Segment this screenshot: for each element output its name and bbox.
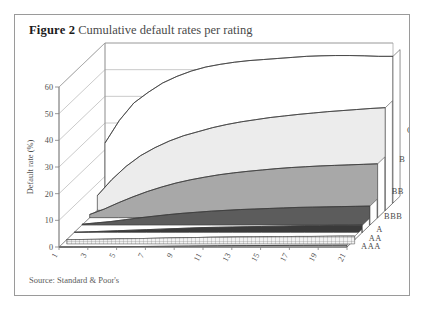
x-tick-label: 5	[107, 252, 117, 260]
x-tick-label: 9	[165, 252, 175, 260]
y-tick-label: 50	[45, 110, 53, 119]
default-rates-3d-area-chart: 0102030405060Default rate (%)13579111315…	[15, 41, 409, 271]
x-tick-label: 15	[250, 252, 262, 263]
y-axis: 0102030405060Default rate (%)	[26, 83, 59, 252]
series-label-bbb: BBB	[384, 212, 403, 221]
y-tick-label: 40	[45, 136, 53, 145]
x-tick-label: 17	[278, 252, 290, 263]
x-tick-label: 1	[50, 252, 60, 260]
page-title: Figure 2 Cumulative default rates per ra…	[29, 23, 253, 38]
series-label-ccc: CCC	[407, 126, 409, 135]
x-tick-label: 7	[136, 252, 146, 260]
ribbon-face-a	[74, 225, 362, 232]
series-ribbons	[59, 50, 400, 247]
x-tick-label: 11	[192, 252, 204, 263]
chart-plot: 0102030405060Default rate (%)13579111315…	[15, 41, 409, 271]
y-tick-label: 0	[49, 243, 53, 252]
x-axis: 13579111315171921Years	[50, 247, 348, 271]
figure-title-text: Cumulative default rates per rating	[78, 23, 252, 37]
figure-number: Figure 2	[29, 23, 75, 37]
series-label-bb: BB	[392, 187, 404, 196]
y-tick-label: 60	[45, 83, 53, 92]
ribbon-endcap-ccc	[393, 50, 400, 203]
source-note: Source: Standard & Poor's	[29, 275, 119, 285]
series-label-b: B	[399, 155, 405, 164]
ribbon-endcap-bb	[378, 157, 385, 218]
x-tick-label: 21	[336, 252, 348, 263]
ribbon-hatch-aa	[67, 236, 355, 244]
x-tick-label: 13	[221, 252, 233, 263]
series-label-aaa: AAA	[361, 242, 381, 251]
y-axis-title: Default rate (%)	[26, 140, 35, 195]
y-tick-label: 20	[45, 190, 53, 199]
y-tick-label: 30	[45, 163, 53, 172]
y-tick-label: 10	[45, 216, 53, 225]
x-tick-label: 19	[307, 252, 319, 263]
series-label-a: A	[376, 225, 383, 234]
x-tick-label: 3	[79, 252, 89, 260]
figure-frame: Figure 2 Cumulative default rates per ra…	[14, 14, 410, 296]
